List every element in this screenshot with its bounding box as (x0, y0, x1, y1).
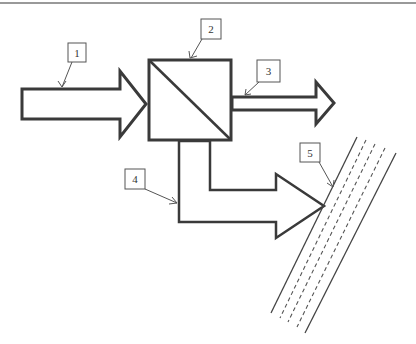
label-4-leader (145, 189, 177, 203)
label-2: 2 (189, 19, 221, 58)
transmitted-beam-arrow (232, 82, 334, 124)
label-3-leader (245, 82, 259, 95)
label-3-text: 3 (266, 65, 272, 77)
label-5-leader (319, 162, 333, 187)
label-4-text: 4 (132, 173, 138, 185)
label-3: 3 (245, 60, 280, 95)
label-5-text: 5 (307, 147, 313, 159)
label-2-text: 2 (208, 23, 214, 35)
diagram-canvas: 1 2 3 4 5 (0, 0, 416, 344)
label-1-text: 1 (74, 47, 80, 59)
label-1-leader (62, 62, 72, 87)
label-1: 1 (58, 43, 86, 87)
label-4: 4 (125, 169, 177, 204)
label-1-arrowhead-icon (58, 81, 66, 87)
label-2-leader (191, 39, 202, 58)
slab-dashed-line-2 (288, 144, 375, 322)
label-5: 5 (300, 143, 334, 187)
slab-dashed-line-1 (280, 140, 366, 318)
layered-slab (271, 137, 396, 333)
slab-outer-line-right (305, 153, 396, 333)
incident-beam-arrow (22, 71, 146, 137)
beam-splitter-cube (149, 60, 231, 140)
slab-dashed-line-3 (297, 148, 385, 327)
